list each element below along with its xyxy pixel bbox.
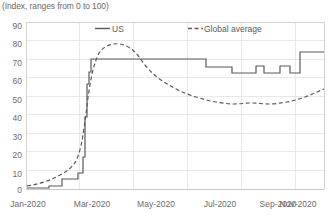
x-axis-tick-nov: Nov-2020 [268,199,328,209]
gridlines [27,23,324,189]
chart-svg [0,0,331,215]
chart-container: (Index, ranges from 0 to 100) 90 80 70 6… [0,0,331,215]
